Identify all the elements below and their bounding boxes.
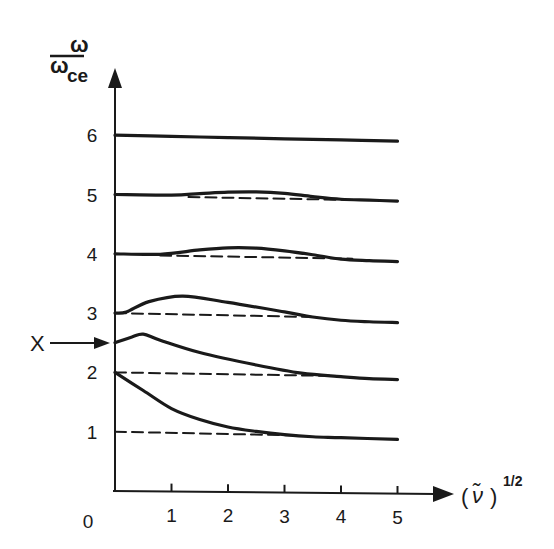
x-label-close-paren: ) — [490, 484, 497, 509]
y-axis-label: ω ω ce — [50, 32, 89, 86]
curve-branch-1-2 — [115, 372, 398, 439]
y-label-denominator: ω — [50, 53, 69, 78]
chart: ω ω ce 12345 0123456 ( ν̃ ) 1/2 X — [0, 0, 554, 549]
curve-branch-3 — [115, 296, 398, 323]
x-tick-label: 4 — [336, 506, 347, 527]
y-label-subscript: ce — [67, 65, 88, 86]
x-ticks: 12345 — [166, 484, 403, 528]
x-axis-arrow-icon — [433, 486, 454, 502]
annotation-x: X — [30, 331, 110, 356]
curve-branch-3-asymptote — [115, 313, 313, 317]
x-label-exponent: 1/2 — [503, 473, 523, 489]
y-ticks: 0123456 — [83, 125, 98, 532]
y-tick-label: 5 — [87, 185, 98, 206]
axes — [108, 68, 454, 502]
y-axis-arrow-icon — [108, 68, 122, 88]
y-tick-label: 3 — [87, 303, 98, 324]
x-tick-label: 2 — [223, 505, 234, 526]
annotation-arrow-icon — [94, 337, 110, 349]
curve-branch-6 — [115, 135, 398, 141]
y-tick-label: 6 — [87, 125, 98, 146]
y-tick-label: 2 — [87, 362, 98, 383]
curve-branch-4 — [115, 248, 398, 262]
y-tick-label: 4 — [87, 244, 98, 265]
x-label-nu-tilde: ν̃ — [472, 483, 483, 508]
x-label-open-paren: ( — [461, 484, 469, 509]
curves — [115, 135, 398, 439]
x-tick-label: 1 — [166, 505, 177, 526]
y-label-numerator: ω — [70, 32, 89, 57]
annotation-x-label: X — [30, 331, 45, 356]
dispersion-plot: ω ω ce 12345 0123456 ( ν̃ ) 1/2 X — [0, 0, 554, 549]
x-axis-label: ( ν̃ ) 1/2 — [461, 473, 523, 509]
y-tick-label: 0 — [83, 511, 94, 532]
x-axis-line — [113, 491, 436, 494]
x-tick-label: 5 — [392, 507, 403, 528]
curve-branch-5 — [115, 192, 398, 201]
y-tick-label: 1 — [87, 422, 98, 443]
x-tick-label: 3 — [279, 506, 290, 527]
